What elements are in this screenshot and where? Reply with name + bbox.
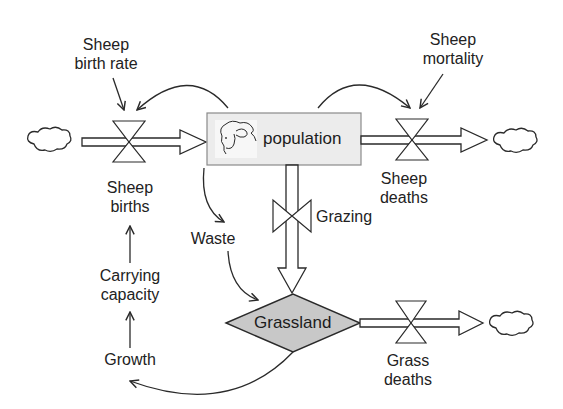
link-birthrate-to-births bbox=[113, 78, 124, 110]
flow-pipe-grazing bbox=[278, 165, 306, 293]
stock-flow-diagram: Sheep birth rate Sheep mortality populat… bbox=[0, 0, 563, 409]
label-sheep-mortality: Sheep mortality bbox=[403, 30, 503, 68]
label-carrying-capacity: Carrying capacity bbox=[86, 266, 174, 304]
label-population: population bbox=[263, 129, 341, 149]
link-population-to-waste bbox=[203, 168, 224, 222]
sheep-icon bbox=[215, 120, 257, 158]
link-population-to-deaths bbox=[318, 85, 410, 108]
flow-pipe-grass-deaths bbox=[360, 311, 483, 335]
label-waste: Waste bbox=[178, 229, 248, 248]
label-sheep-births: Sheep births bbox=[92, 178, 168, 216]
label-growth: Growth bbox=[92, 350, 168, 369]
label-grassland: Grassland bbox=[254, 313, 331, 333]
cloud-sink-grass-deaths-icon bbox=[490, 311, 533, 335]
label-sheep-birth-rate: Sheep birth rate bbox=[66, 35, 146, 73]
link-population-to-births bbox=[137, 85, 228, 110]
link-waste-to-grassland bbox=[228, 251, 258, 300]
link-mortality-to-deaths bbox=[420, 74, 443, 108]
flow-pipe-sheep-births bbox=[82, 130, 206, 154]
flow-pipe-sheep-deaths bbox=[361, 128, 487, 152]
label-sheep-deaths: Sheep deaths bbox=[366, 169, 442, 207]
label-grass-deaths: Grass deaths bbox=[370, 351, 446, 389]
label-grazing: Grazing bbox=[316, 207, 372, 226]
cloud-source-icon bbox=[28, 127, 71, 151]
cloud-sink-sheep-deaths-icon bbox=[494, 128, 537, 152]
